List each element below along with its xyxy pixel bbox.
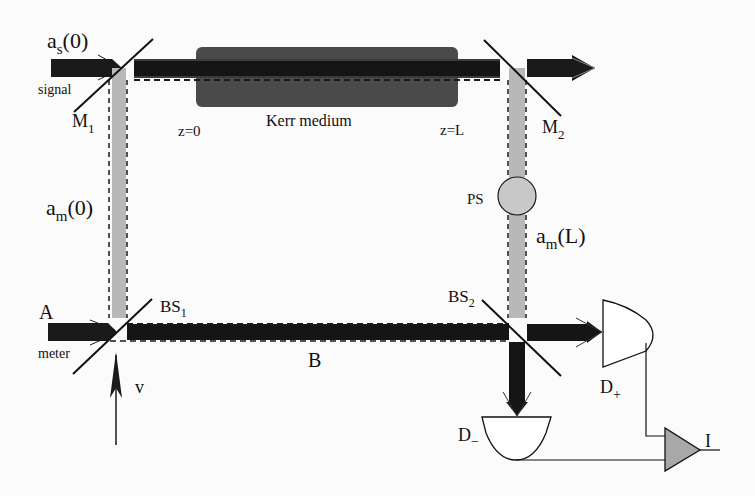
label-meter: meter: [38, 346, 70, 361]
label-i: I: [705, 431, 711, 451]
signal-beam: [134, 59, 500, 78]
phase-shifter: [498, 177, 536, 215]
label-z0: z=0: [178, 123, 201, 139]
signal-output-arrow: [527, 55, 595, 81]
label-kerr-medium: Kerr medium: [266, 112, 352, 129]
label-d-plus: D+: [600, 377, 621, 402]
label-a: A: [39, 301, 54, 323]
vacuum-input-arrow: [110, 352, 122, 445]
differential-amplifier: [665, 428, 700, 471]
label-m2: M2: [542, 117, 565, 142]
beam-b: [127, 324, 509, 340]
label-as0: as(0): [47, 28, 88, 57]
label-ps: PS: [467, 191, 484, 207]
detector-d-minus: [482, 417, 551, 460]
label-bs1: BS1: [160, 297, 187, 320]
label-d-minus: D−: [458, 425, 479, 449]
meter-beam-left: [112, 68, 126, 318]
label-b: B: [308, 349, 321, 371]
label-am0: am(0): [46, 195, 93, 224]
label-m1: M1: [72, 111, 95, 136]
label-signal: signal: [38, 82, 72, 97]
diagram-canvas: as(0) signal M1 z=0 Kerr medium z=L M2 a…: [0, 0, 755, 496]
label-aml: am(L): [536, 223, 586, 252]
label-zl: z=L: [440, 122, 464, 138]
label-bs2: BS2: [448, 287, 475, 310]
wire-d-plus: [646, 343, 665, 436]
beam-to-d-plus: [527, 318, 602, 347]
beam-to-d-minus: [503, 342, 531, 416]
label-v: v: [135, 377, 144, 397]
